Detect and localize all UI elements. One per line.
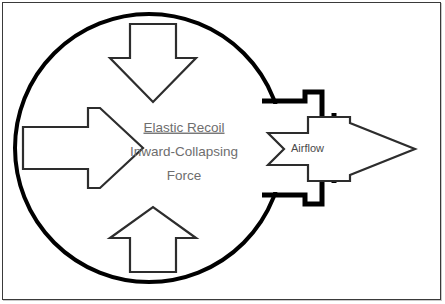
label-inward-collapsing: Inward-Collapsing	[130, 144, 238, 159]
diagram-canvas: Airflow Elastic Recoil Inward-Collapsing…	[0, 0, 445, 304]
label-elastic-recoil: Elastic Recoil	[143, 120, 224, 135]
label-force: Force	[167, 168, 202, 183]
airflow-label: Airflow	[291, 142, 324, 154]
elastic-recoil-diagram: Airflow Elastic Recoil Inward-Collapsing…	[0, 0, 445, 304]
